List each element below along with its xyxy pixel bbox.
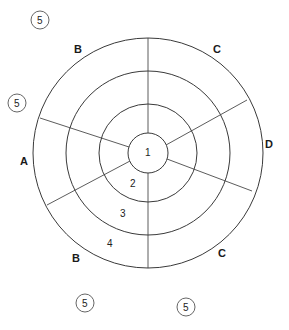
badge-5-bottom-right: 5 [177, 298, 195, 316]
spoke-upper-left [40, 118, 129, 147]
spoke-lower-left [47, 161, 130, 205]
concentric-zone-diagram: 1 2 3 4 B C A D B C 5 5 5 5 [0, 0, 289, 330]
sector-label-c-bottom: C [218, 247, 226, 259]
sector-label-d: D [265, 138, 273, 150]
badge-5-bottom-left: 5 [76, 294, 94, 312]
ring-label-4: 4 [107, 238, 113, 249]
sector-label-c-top: C [213, 43, 221, 55]
ring-label-2: 2 [130, 178, 136, 189]
badge-5-top-left: 5 [31, 11, 49, 29]
sector-label-a: A [20, 155, 28, 167]
spoke-upper-right [166, 100, 247, 145]
badge-label: 5 [37, 15, 43, 26]
badge-5-left: 5 [8, 94, 26, 112]
badge-label: 5 [183, 302, 189, 313]
sector-label-b-bottom: B [72, 252, 80, 264]
sector-label-b-top: B [74, 43, 82, 55]
ring-label-1: 1 [145, 147, 151, 158]
spoke-lower-right [167, 159, 252, 191]
badge-label: 5 [14, 98, 20, 109]
ring-label-3: 3 [120, 208, 126, 219]
badge-label: 5 [82, 298, 88, 309]
